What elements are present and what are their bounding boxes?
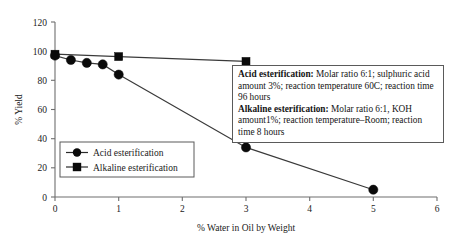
y-tick-label-100: 100 — [33, 47, 48, 57]
data-point-acid-1 — [66, 55, 75, 64]
legend-label-alkaline: Alkaline esterification — [93, 163, 178, 173]
x-tick-label-3: 3 — [244, 204, 249, 214]
y-axis-ticks — [51, 22, 55, 197]
legend-label-acid: Acid esterification — [93, 148, 164, 158]
legend-marker-square-icon — [73, 163, 81, 171]
y-tick-label-0: 0 — [42, 193, 47, 203]
data-point-acid-3 — [98, 60, 107, 69]
chart-container: 120 100 80 60 40 20 0 0 1 2 3 4 5 6 % Wa… — [0, 0, 452, 241]
x-axis-ticks — [55, 197, 437, 201]
data-point-acid-2 — [82, 58, 91, 67]
x-tick-label-2: 2 — [180, 204, 185, 214]
annotation-line-alkaline: Alkaline esterification: Molar ratio 6:1… — [238, 104, 439, 139]
chart-legend: Acid esterification Alkaline esterificat… — [60, 142, 194, 177]
x-tick-label-6: 6 — [435, 204, 440, 214]
annotation-line-acid: Acid esterification: Molar ratio 6:1; su… — [238, 69, 439, 104]
series-alkaline-esterification — [51, 50, 250, 65]
y-tick-label-60: 60 — [38, 105, 48, 115]
x-axis-title: % Water in Oil by Weight — [197, 223, 295, 233]
data-point-acid-6 — [369, 185, 378, 194]
y-tick-label-20: 20 — [38, 163, 48, 173]
annotation-label-acid: Acid esterification: — [238, 69, 314, 79]
y-tick-label-120: 120 — [33, 18, 48, 28]
x-tick-label-0: 0 — [53, 204, 58, 214]
data-point-alkaline-1 — [115, 53, 123, 61]
annotation-label-alkaline: Alkaline esterification: — [238, 104, 329, 114]
data-point-acid-4 — [114, 70, 123, 79]
y-axis-title: % Yield — [14, 94, 24, 125]
y-tick-label-80: 80 — [38, 76, 48, 86]
data-point-acid-5 — [241, 143, 250, 152]
x-tick-label-1: 1 — [116, 204, 121, 214]
legend-marker-circle-icon — [73, 148, 81, 156]
data-point-acid-0 — [50, 51, 59, 60]
x-tick-label-5: 5 — [371, 204, 376, 214]
conditions-annotation-box: Acid esterification: Molar ratio 6:1; su… — [232, 65, 444, 143]
y-tick-label-40: 40 — [38, 134, 48, 144]
x-tick-label-4: 4 — [307, 204, 312, 214]
